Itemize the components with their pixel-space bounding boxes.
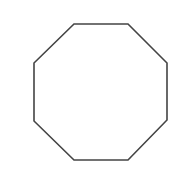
octagon-shape	[34, 24, 167, 160]
diagram-svg	[0, 0, 183, 176]
diagram-canvas	[0, 0, 183, 176]
